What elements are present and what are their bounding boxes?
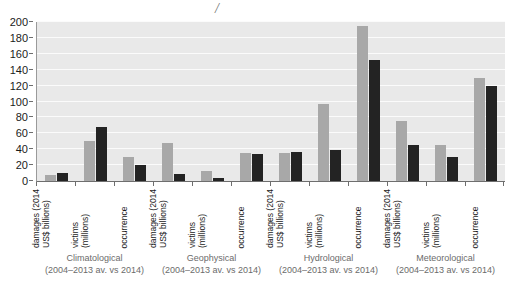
group-caption-period: (2004–2013 av. vs 2014) [149,264,275,276]
x-category-label: victims(millions) [71,186,90,248]
bars-layer [37,22,505,181]
y-tick-mark [29,116,33,117]
y-tick-mark [29,37,33,38]
plot-area [36,22,505,182]
group-caption-period: (2004–2013 av. vs 2014) [383,264,509,276]
y-tick-mark [29,85,33,86]
y-tick-mark [29,148,33,149]
bar-chart-figure: / 020406080100120140160180200 damages (2… [0,0,509,300]
x-category-label: victims(millions) [422,186,441,248]
y-tick-mark [29,69,33,70]
bar [330,150,341,181]
x-category-label: damages (2014US$ billions) [149,186,168,248]
bar [396,121,407,181]
y-tick-label: 200 [10,17,28,176]
x-axis-category-labels: damages (2014US$ billions)victims(millio… [36,186,504,248]
group-caption-name: Hydrological [266,252,392,264]
bar [486,86,497,181]
group-caption: Climatological(2004–2013 av. vs 2014) [32,252,158,276]
bar [174,174,185,181]
bar [357,26,368,181]
x-category-label: occurrence [236,186,246,248]
x-category-label: occurrence [470,186,480,248]
bar [162,143,173,181]
bar [213,178,224,181]
x-category-label: damages (2014US$ billions) [32,186,51,248]
group-caption: Geophysical(2004–2013 av. vs 2014) [149,252,275,276]
group-caption-name: Geophysical [149,252,275,264]
bar [123,157,134,181]
bar [318,104,329,181]
x-category-label: victims(millions) [188,186,207,248]
y-tick-mark [29,180,33,181]
bar [252,154,263,181]
x-category-label: victims(millions) [305,186,324,248]
bar [291,152,302,181]
bar [408,145,419,181]
x-category-label: occurrence [353,186,363,248]
bar [240,153,251,181]
group-caption-period: (2004–2013 av. vs 2014) [266,264,392,276]
bar [84,141,95,181]
y-tick-mark [29,53,33,54]
group-caption-name: Climatological [32,252,158,264]
group-caption-name: Meteorological [383,252,509,264]
bar [57,173,68,181]
bar [135,165,146,181]
x-axis-group-captions: Climatological(2004–2013 av. vs 2014)Geo… [0,252,509,292]
x-category-label: occurrence [119,186,129,248]
bar [201,171,212,181]
y-tick-mark [29,132,33,133]
y-tick-mark [29,164,33,165]
bar [435,145,446,181]
y-tick-mark [29,21,33,22]
bar [474,78,485,181]
y-axis: 020406080100120140160180200 [0,22,33,181]
group-caption: Meteorological(2004–2013 av. vs 2014) [383,252,509,276]
top-annotation-slash: / [212,2,222,16]
x-category-label: damages (2014US$ billions) [383,186,402,248]
bar [96,127,107,181]
x-category-label: damages (2014US$ billions) [266,186,285,248]
bar [447,157,458,181]
bar [369,60,380,181]
group-caption-period: (2004–2013 av. vs 2014) [32,264,158,276]
bar [279,153,290,181]
group-caption: Hydrological(2004–2013 av. vs 2014) [266,252,392,276]
bar [45,175,56,181]
y-tick-mark [29,101,33,102]
